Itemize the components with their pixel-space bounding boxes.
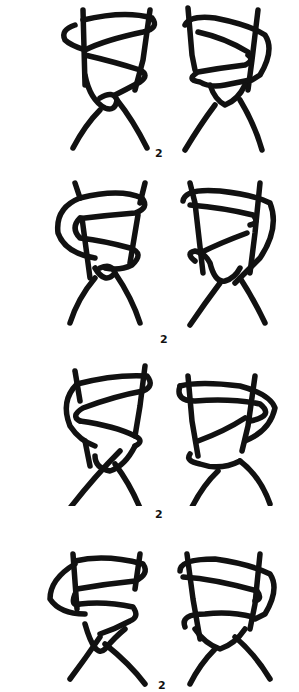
knot-row-2: 2 [0,173,299,346]
step-label: 2 [155,147,163,160]
step-label: 2 [160,333,168,346]
knot-right-3 [170,346,280,506]
knot-left-3 [55,346,165,506]
knot-left-1 [55,0,165,160]
knot-row-3: 2 [0,346,299,519]
knot-left-2 [50,173,160,333]
step-label: 2 [158,679,166,692]
knot-row-1: 2 [0,0,299,173]
knot-left-4 [45,519,155,692]
knot-right-1 [170,0,280,160]
knot-row-4: 2 [0,519,299,692]
knot-right-4 [175,519,285,692]
knot-right-2 [175,173,285,333]
